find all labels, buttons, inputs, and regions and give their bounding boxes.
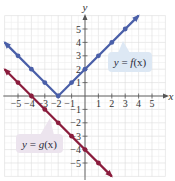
- g-label-pointer: [40, 118, 54, 135]
- x-tick-label: −4: [24, 98, 35, 109]
- x-tick-label: 3: [123, 98, 128, 109]
- x-tick-label: 5: [150, 98, 155, 109]
- g-line-point: [96, 161, 101, 166]
- g-line-point: [29, 94, 34, 99]
- f-line-point: [96, 53, 101, 58]
- y-tick-label: −4: [70, 144, 81, 155]
- g-label-arg: (x): [44, 138, 57, 150]
- function-graph: xy−5−4−3−2−112345−5−4−3−2−112345: [0, 0, 175, 181]
- x-tick-label: 2: [109, 98, 114, 109]
- f-label-arg: (x): [133, 56, 146, 68]
- f-line-point: [56, 94, 61, 99]
- g-line-point: [56, 120, 61, 125]
- x-tick-label: −2: [51, 98, 62, 109]
- f-line-point: [109, 40, 114, 45]
- g-label-box: y = g (x): [16, 134, 63, 153]
- x-tick-label: 1: [96, 98, 101, 109]
- f-line-point: [29, 67, 34, 72]
- f-line-point: [83, 67, 88, 72]
- y-tick-label: −5: [70, 158, 81, 169]
- y-axis-arrow-icon: [83, 14, 88, 20]
- g-line-point: [83, 147, 88, 152]
- f-line-point: [69, 80, 74, 85]
- y-axis-label: y: [82, 1, 88, 13]
- y-tick-label: 4: [76, 37, 81, 48]
- g-label-eq: =: [27, 138, 39, 150]
- y-tick-label: 3: [76, 50, 81, 61]
- x-tick-label: 4: [136, 98, 141, 109]
- y-tick-label: −2: [70, 117, 81, 128]
- f-line-point: [123, 27, 128, 32]
- g-line-point: [42, 107, 47, 112]
- f-label-eq: =: [119, 56, 131, 68]
- y-tick-label: −1: [70, 104, 81, 115]
- f-line-point: [16, 53, 21, 58]
- x-tick-label: −5: [11, 98, 22, 109]
- f-label-box: y = f (x): [108, 52, 152, 72]
- x-axis-label: x: [168, 90, 174, 102]
- g-line-point: [16, 80, 21, 85]
- f-line-point: [42, 80, 47, 85]
- g-line-point: [69, 134, 74, 139]
- y-tick-label: 5: [76, 24, 81, 35]
